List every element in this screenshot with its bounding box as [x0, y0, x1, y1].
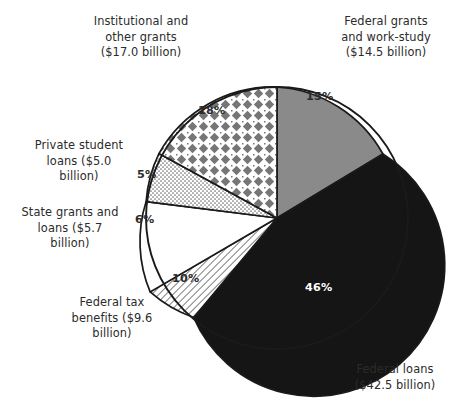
- slice-label-line-3: billion): [2, 236, 138, 252]
- slice-percent-federal-tax-benefits: 10%: [172, 272, 199, 285]
- slice-label-private-student-loans: Private student loans ($5.0 billion): [16, 138, 142, 185]
- slice-label-state-grants-and-loans: State grants and loans ($5.7 billion): [2, 205, 138, 252]
- slice-label-line-1: Federal tax: [48, 295, 176, 311]
- slice-label-line-2: loans ($5.0: [16, 154, 142, 170]
- slice-label-line-2: benefits ($9.6: [48, 311, 176, 327]
- slice-label-line-1: Private student: [16, 138, 142, 154]
- pie-chart-figure: Institutional and other grants ($17.0 bi…: [0, 0, 463, 406]
- slice-percent-federal-loans: 46%: [305, 281, 332, 294]
- slice-label-line-1: Federal grants: [310, 14, 462, 30]
- slice-label-federal-grants-and-work-study: Federal grants and work-study ($14.5 bil…: [310, 14, 462, 61]
- slice-label-line-1: Institutional and: [62, 14, 220, 30]
- slice-label-line-3: ($17.0 billion): [62, 45, 220, 61]
- slice-label-line-2: loans ($5.7: [2, 221, 138, 237]
- slice-label-line-2: other grants: [62, 30, 220, 46]
- slice-percent-institutional-and-other-grants: 18%: [198, 104, 225, 117]
- slice-percent-state-grants-and-loans: 6%: [135, 213, 154, 226]
- slice-percent-federal-grants-and-work-study: 15%: [306, 90, 333, 103]
- pie-chart-canvas: [0, 0, 463, 406]
- slice-label-line-1: Federal loans: [330, 362, 460, 378]
- slice-percent-private-student-loans: 5%: [137, 168, 156, 181]
- slice-label-federal-loans: Federal loans ($42.5 billion): [330, 362, 460, 393]
- slice-label-line-3: billion): [16, 169, 142, 185]
- pie-slices: [140, 87, 445, 396]
- slice-label-line-1: State grants and: [2, 205, 138, 221]
- slice-label-institutional-and-other-grants: Institutional and other grants ($17.0 bi…: [62, 14, 220, 61]
- slice-label-line-3: billion): [48, 326, 176, 342]
- slice-label-federal-tax-benefits: Federal tax benefits ($9.6 billion): [48, 295, 176, 342]
- slice-label-line-2: and work-study: [310, 30, 462, 46]
- slice-label-line-3: ($14.5 billion): [310, 45, 462, 61]
- slice-label-line-2: ($42.5 billion): [330, 378, 460, 394]
